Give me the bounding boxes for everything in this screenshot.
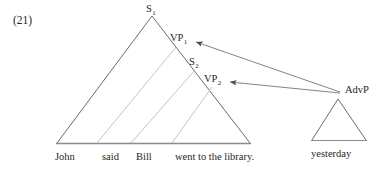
advp-triangle — [311, 99, 367, 141]
node-vp2-base: VP — [204, 73, 217, 84]
terminal-word-said: said — [102, 152, 119, 163]
node-s1-subscript: 1 — [152, 9, 156, 17]
inner-line-vp1 — [97, 47, 176, 143]
terminal-phrase-went-to-the-library: went to the library. — [175, 152, 254, 163]
node-label-vp2: VP2 — [204, 74, 221, 85]
node-label-vp1: VP1 — [170, 33, 187, 44]
node-s2-subscript: 2 — [195, 62, 199, 70]
node-vp2-subscript: 2 — [218, 79, 222, 87]
tree-diagram-canvas — [0, 0, 388, 172]
node-label-s1: S1 — [146, 4, 155, 15]
node-label-advp: AdvP — [345, 85, 369, 96]
inner-line-vp2 — [172, 87, 212, 143]
node-s1-base: S — [146, 3, 152, 14]
example-number: (21) — [13, 15, 32, 27]
node-vp1-base: VP — [170, 32, 183, 43]
node-label-s2: S2 — [189, 57, 198, 68]
syntax-tree-figure: (21) S1 VP1 S2 VP2 AdvP John said Bill w… — [0, 0, 388, 172]
node-vp1-subscript: 1 — [184, 38, 188, 46]
node-advp-base: AdvP — [345, 84, 369, 95]
main-triangle-s1 — [57, 16, 250, 143]
node-s2-base: S — [189, 56, 195, 67]
inner-line-s2 — [131, 70, 195, 143]
terminal-word-john: John — [55, 152, 75, 163]
arrow-advp-to-vp2 — [230, 82, 340, 93]
terminal-word-bill: Bill — [136, 152, 152, 163]
terminal-word-yesterday: yesterday — [311, 149, 351, 160]
